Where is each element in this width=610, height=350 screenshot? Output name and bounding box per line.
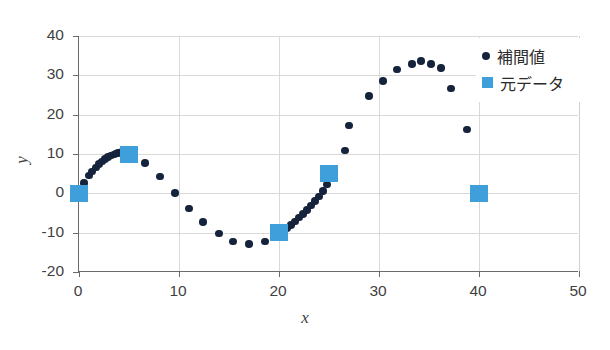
y-axis-tick xyxy=(73,115,79,116)
data-point-interpolated xyxy=(463,126,471,134)
x-axis-tick-label: 10 xyxy=(148,282,208,300)
data-point-interpolated xyxy=(393,66,401,74)
x-axis-tick-label: 50 xyxy=(548,282,608,300)
data-point-interpolated xyxy=(185,205,193,213)
x-axis-tick xyxy=(79,271,80,277)
data-point-interpolated xyxy=(447,85,455,93)
data-point-interpolated xyxy=(261,238,269,246)
data-point-interpolated xyxy=(171,189,179,197)
y-axis-tick xyxy=(73,36,79,37)
x-axis-tick xyxy=(179,271,180,277)
data-point-original xyxy=(120,146,138,163)
y-axis-tick xyxy=(73,233,79,234)
y-axis-tick-label: 0 xyxy=(0,183,64,201)
gridline-horizontal xyxy=(79,233,578,234)
legend-item-original-data[interactable]: 元データ xyxy=(476,69,588,96)
data-point-interpolated xyxy=(365,92,373,100)
y-axis-title: y xyxy=(12,156,32,164)
x-axis-tick-label: 0 xyxy=(48,282,108,300)
circle-marker-icon xyxy=(482,52,490,60)
y-axis-tick-label: 40 xyxy=(0,26,64,44)
x-axis-tick-label: 30 xyxy=(348,282,408,300)
x-axis-tick xyxy=(479,271,480,277)
legend-item-label: 元データ xyxy=(500,71,564,95)
data-point-original xyxy=(470,185,488,202)
x-axis-tick xyxy=(579,271,580,277)
y-axis-tick-label: -20 xyxy=(0,262,64,280)
data-point-interpolated xyxy=(437,64,445,72)
gridline-horizontal xyxy=(79,115,578,116)
gridline-horizontal xyxy=(79,154,578,155)
data-point-interpolated xyxy=(245,240,253,248)
x-axis-tick xyxy=(379,271,380,277)
data-point-interpolated xyxy=(427,60,435,68)
y-axis-tick-label: 20 xyxy=(0,105,64,123)
data-point-interpolated xyxy=(156,173,164,181)
x-axis-tick xyxy=(279,271,280,277)
data-point-interpolated xyxy=(141,159,149,167)
data-point-interpolated xyxy=(215,230,223,238)
y-axis-tick-label: -10 xyxy=(0,223,64,241)
data-point-interpolated xyxy=(341,147,349,155)
chart-container: -20-10010203040 01020304050 y x 補間値 元データ xyxy=(0,0,610,350)
gridline-horizontal xyxy=(79,36,578,37)
data-point-interpolated xyxy=(417,57,425,65)
data-point-interpolated xyxy=(345,122,353,130)
x-axis-title: x xyxy=(0,308,610,328)
data-point-interpolated xyxy=(379,77,387,85)
chart-legend: 補間値 元データ xyxy=(476,38,588,102)
data-point-original xyxy=(270,224,288,241)
gridline-vertical xyxy=(179,36,180,271)
y-axis-tick xyxy=(73,75,79,76)
legend-item-interpolated[interactable]: 補間値 xyxy=(476,42,588,69)
data-point-original xyxy=(70,185,88,202)
square-marker-icon xyxy=(482,77,493,88)
y-axis-tick xyxy=(73,154,79,155)
legend-item-label: 補間値 xyxy=(497,44,545,68)
data-point-original xyxy=(320,165,338,182)
gridline-vertical xyxy=(379,36,380,271)
data-point-interpolated xyxy=(199,218,207,226)
data-point-interpolated xyxy=(408,60,416,68)
x-axis-tick-label: 40 xyxy=(448,282,508,300)
y-axis-tick-label: 10 xyxy=(0,144,64,162)
x-axis-tick-label: 20 xyxy=(248,282,308,300)
y-axis-tick-label: 30 xyxy=(0,65,64,83)
gridline-horizontal xyxy=(79,193,578,194)
data-point-interpolated xyxy=(319,187,327,195)
data-point-interpolated xyxy=(229,238,237,246)
